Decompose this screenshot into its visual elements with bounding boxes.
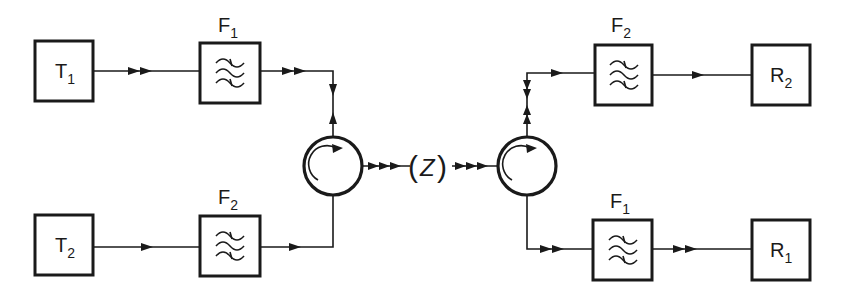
link-close-paren: ) (437, 150, 447, 183)
circulator-f2-line (527, 73, 595, 137)
double-arrow-icon (673, 245, 697, 253)
f1-circulator-line (260, 71, 333, 137)
receiver-r2: R2 (752, 45, 810, 105)
triple-arrow-icon (368, 162, 401, 170)
circulator-f1-line (527, 195, 593, 249)
arrow-down-icon (523, 80, 531, 99)
center-link: ( Z ) (362, 150, 498, 183)
triple-arrow-icon (455, 162, 488, 170)
arrow-right-icon (692, 71, 704, 79)
double-arrow-icon (282, 67, 306, 75)
filter-f1-top-left: F1 (200, 14, 260, 103)
f1-top-label: F1 (218, 14, 238, 41)
double-arrow-icon (540, 245, 564, 253)
arrow-right-icon (289, 243, 301, 251)
arrow-right-icon (141, 243, 153, 251)
filter-f2-top-right: F2 (595, 14, 652, 105)
arrow-down-icon (329, 84, 337, 96)
transmitter-t2: T2 (35, 215, 93, 275)
link-open-paren: ( (408, 150, 418, 183)
f2-circulator-line (260, 195, 333, 247)
circulator-right (498, 137, 556, 195)
transmitter-t1: T1 (35, 41, 93, 101)
arrow-up-icon (329, 112, 337, 124)
double-arrow-icon (128, 67, 152, 75)
block-diagram: T1 F1 T2 F2 ( Z ) (0, 0, 843, 299)
f2-bottom-label: F2 (218, 186, 238, 213)
filter-f2-bottom-left: F2 (200, 186, 260, 276)
circulator-left (304, 137, 362, 195)
f1-bottom-label: F1 (610, 190, 630, 217)
filter-f1-bottom-right: F1 (593, 190, 652, 280)
impedance-z-label: Z (419, 154, 436, 181)
f2-top-label: F2 (611, 14, 631, 41)
arrow-right-icon (551, 69, 563, 77)
receiver-r1: R1 (752, 220, 810, 280)
arrow-up-icon (523, 105, 531, 124)
